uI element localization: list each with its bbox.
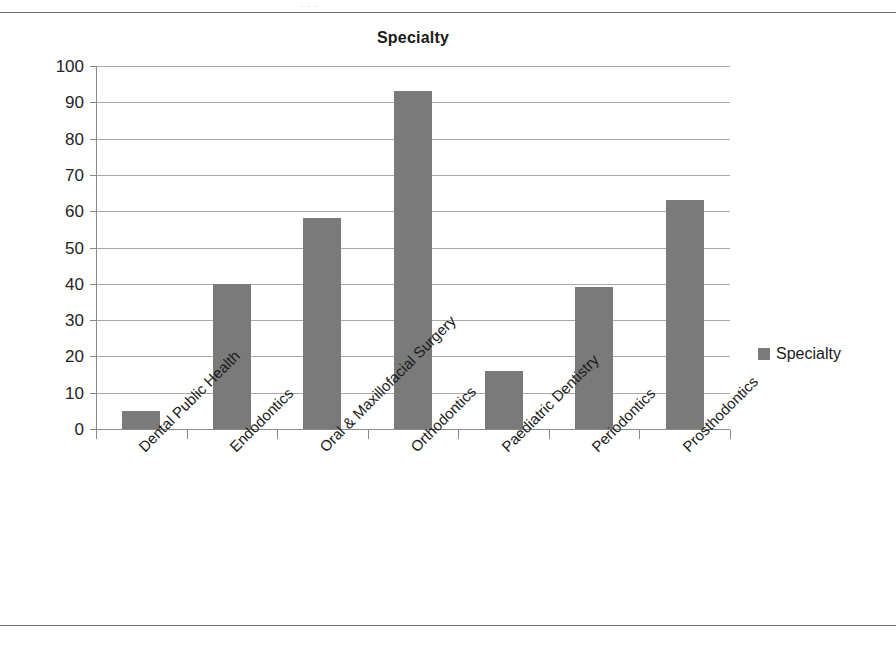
y-axis-label-0: 0 (30, 421, 84, 438)
legend-label-specialty: Specialty (776, 346, 841, 362)
y-tick-70 (90, 175, 97, 176)
x-tick-0 (96, 430, 97, 439)
y-tick-60 (90, 211, 97, 212)
y-tick-90 (90, 102, 97, 103)
y-tick-50 (90, 248, 97, 249)
x-tick-1 (187, 430, 188, 439)
bar-paediatric-dentistry[interactable] (485, 371, 523, 429)
y-axis-label-60: 60 (30, 203, 84, 220)
page-bottom-rule (0, 625, 896, 626)
bar-prosthodontics[interactable] (666, 200, 704, 429)
y-axis-label-30: 30 (30, 312, 84, 329)
y-tick-20 (90, 356, 97, 357)
y-axis-label-90: 90 (30, 94, 84, 111)
chart-title: Specialty (96, 29, 730, 47)
y-axis-label-70: 70 (30, 167, 84, 184)
y-axis-label-40: 40 (30, 276, 84, 293)
y-axis-label-20: 20 (30, 348, 84, 365)
gridline-0 (96, 429, 730, 430)
y-axis-label-100: 100 (30, 58, 84, 75)
y-tick-30 (90, 320, 97, 321)
gridline-100 (96, 66, 730, 67)
x-tick-4 (458, 430, 459, 439)
x-tick-6 (639, 430, 640, 439)
scan-artifact-text: · · · (300, 0, 730, 7)
bar-oral-maxillofacial-surgery[interactable] (303, 218, 341, 429)
y-tick-100 (90, 66, 97, 67)
bar-chart: Specialty Specialty 01020304050607080901… (0, 13, 896, 623)
x-tick-5 (549, 430, 550, 439)
y-axis-label-50: 50 (30, 240, 84, 257)
y-tick-40 (90, 284, 97, 285)
x-tick-end (730, 430, 731, 439)
chart-legend: Specialty (758, 346, 841, 362)
y-axis-label-80: 80 (30, 131, 84, 148)
x-tick-3 (368, 430, 369, 439)
legend-swatch-specialty (758, 348, 770, 360)
x-tick-2 (277, 430, 278, 439)
y-tick-80 (90, 139, 97, 140)
y-axis-label-10: 10 (30, 385, 84, 402)
y-tick-10 (90, 393, 97, 394)
plot-area (96, 66, 730, 429)
